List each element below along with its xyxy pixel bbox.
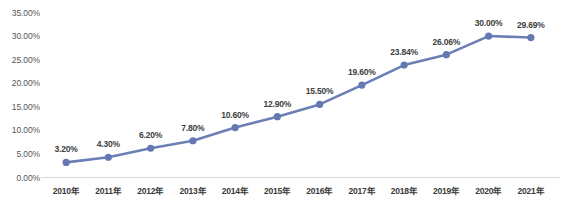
data-point-label: 6.20% xyxy=(139,130,162,140)
data-point-label: 15.50% xyxy=(306,86,334,96)
data-point-label: 19.60% xyxy=(348,67,376,77)
data-point-label: 23.84% xyxy=(390,47,418,57)
data-point-label: 26.06% xyxy=(433,37,461,47)
line-chart: 0.00%5.00%10.00%15.00%20.00%25.00%30.00%… xyxy=(0,0,563,215)
data-point-label: 10.60% xyxy=(221,110,249,120)
data-point-label: 4.30% xyxy=(97,139,120,149)
data-point-label: 29.69% xyxy=(517,20,545,30)
data-labels: 3.20%4.30%6.20%7.80%10.60%12.90%15.50%19… xyxy=(0,0,563,215)
data-point-label: 3.20% xyxy=(55,144,78,154)
data-point-label: 7.80% xyxy=(181,123,204,133)
data-point-label: 30.00% xyxy=(475,18,503,28)
data-point-label: 12.90% xyxy=(264,99,292,109)
